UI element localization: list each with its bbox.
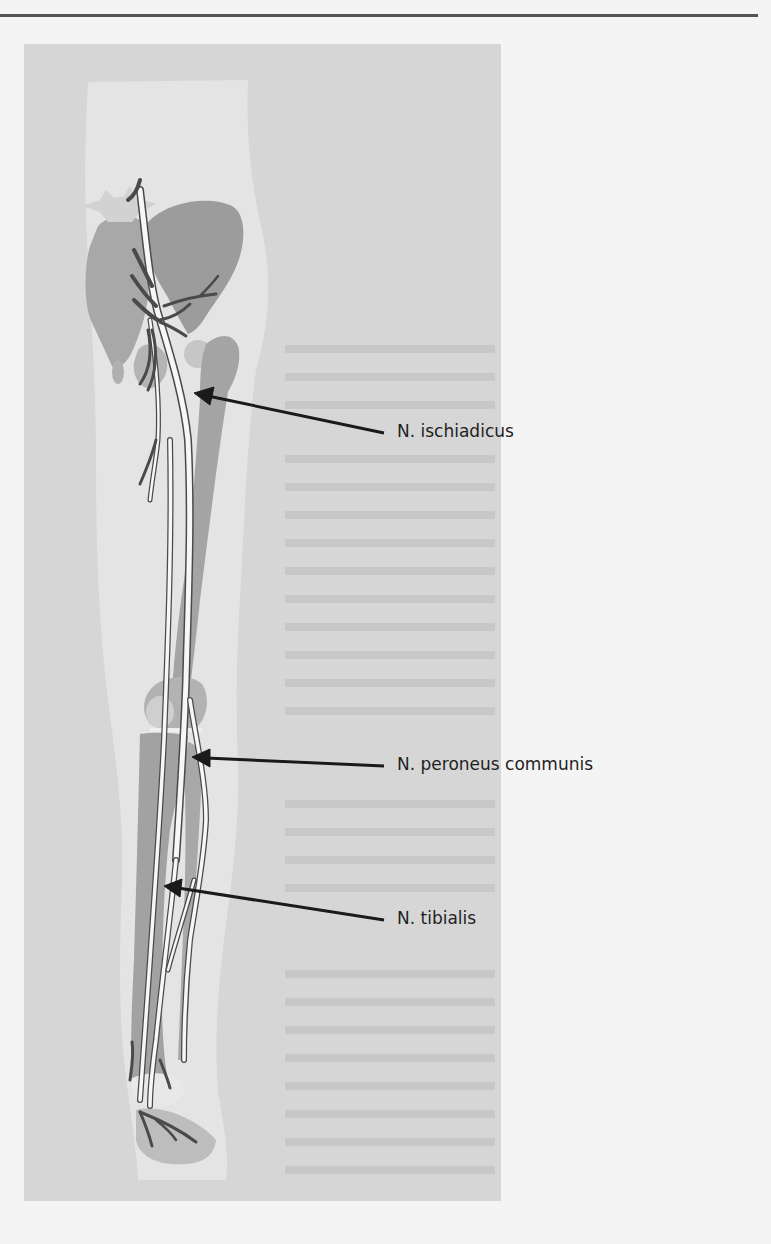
label-n-ischiadicus: N. ischiadicus xyxy=(397,421,514,441)
label-n-peroneus-communis: N. peroneus communis xyxy=(397,754,593,774)
anatomy-illustration xyxy=(0,0,771,1244)
patella xyxy=(146,696,174,728)
coccyx-bone xyxy=(112,360,124,384)
label-n-tibialis: N. tibialis xyxy=(397,908,476,928)
